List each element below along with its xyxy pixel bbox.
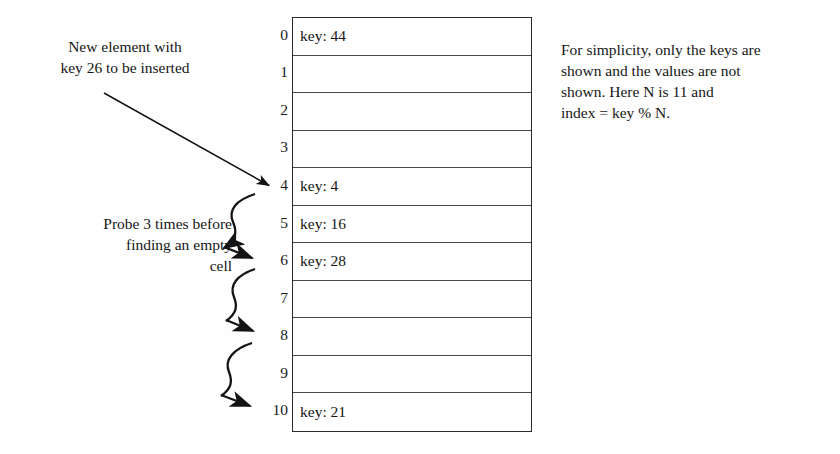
hash-slot-row: [293, 131, 531, 169]
insert-arrow: [104, 93, 269, 186]
slot-index-label: 4: [258, 176, 288, 194]
hash-slot-value: key: 28: [300, 252, 346, 270]
probe-arrow-5-to-6-tail: [226, 269, 255, 321]
probe-arrow-6-to-7-tail: [221, 343, 252, 396]
probe-arrow-5-to-6: [226, 320, 253, 331]
new-element-annotation: New element with key 26 to be inserted: [18, 36, 232, 78]
slot-index-label: 1: [258, 63, 288, 81]
hash-slot-value: key: 4: [300, 177, 338, 195]
simplicity-note-annotation: For simplicity, only the keys are shown …: [561, 39, 823, 123]
probe-annotation: Probe 3 times before finding an empty ce…: [22, 213, 232, 276]
slot-index-label: 0: [258, 26, 288, 44]
slot-index-label: 8: [258, 326, 288, 344]
hash-slot-row: key: 21: [293, 393, 531, 431]
slot-index-label: 2: [258, 101, 288, 119]
hash-slot-row: [293, 93, 531, 131]
hash-slot-row: key: 44: [293, 18, 531, 56]
slot-index-column: 012345678910: [258, 17, 288, 432]
slot-index-label: 5: [258, 214, 288, 232]
hash-slot-row: key: 16: [293, 206, 531, 244]
hash-slot-row: key: 4: [293, 168, 531, 206]
hash-slot-row: [293, 281, 531, 319]
hash-slot-row: [293, 356, 531, 394]
hash-slot-row: [293, 56, 531, 94]
slot-index-label: 6: [258, 251, 288, 269]
probe-arrow-6-to-7: [221, 395, 250, 406]
diagram-canvas: New element with key 26 to be inserted P…: [0, 0, 840, 454]
hash-slot-value: key: 44: [300, 27, 346, 45]
hash-slot-value: key: 21: [300, 403, 346, 421]
hash-slot-value: key: 16: [300, 215, 346, 233]
hash-slot-row: key: 28: [293, 243, 531, 281]
hash-slot-row: [293, 318, 531, 356]
slot-index-label: 7: [258, 289, 288, 307]
slot-index-label: 9: [258, 364, 288, 382]
slot-index-label: 3: [258, 138, 288, 156]
slot-index-label: 10: [258, 401, 288, 419]
hash-table: key: 44key: 4key: 16key: 28key: 21: [292, 17, 532, 432]
